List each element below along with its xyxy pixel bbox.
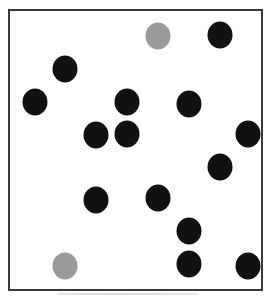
black-dot[interactable] (176, 218, 201, 245)
black-dot[interactable] (114, 89, 139, 116)
black-dot[interactable] (235, 252, 260, 279)
black-dot[interactable] (176, 251, 201, 278)
black-dot[interactable] (83, 186, 108, 213)
black-dot[interactable] (235, 120, 260, 147)
black-dot[interactable] (52, 56, 77, 83)
game-board (8, 9, 263, 291)
black-dot[interactable] (23, 89, 48, 116)
black-dot[interactable] (207, 153, 232, 180)
black-dot[interactable] (145, 185, 170, 212)
dot-layer (2, 2, 265, 299)
black-dot[interactable] (207, 21, 232, 48)
black-dot[interactable] (176, 90, 201, 117)
caption-text-illegible (58, 293, 198, 295)
gray-dot[interactable] (145, 23, 170, 50)
black-dot[interactable] (114, 120, 139, 147)
gray-dot[interactable] (52, 252, 77, 279)
black-dot[interactable] (83, 122, 108, 149)
